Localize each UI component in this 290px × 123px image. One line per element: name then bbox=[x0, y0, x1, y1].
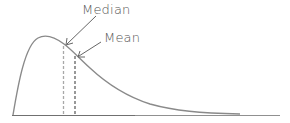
distribution-curve bbox=[13, 36, 240, 115]
skewed-distribution-diagram bbox=[0, 0, 290, 123]
median-label: Median bbox=[82, 2, 130, 17]
mean-arrow bbox=[78, 42, 101, 57]
mean-label: Mean bbox=[104, 30, 140, 45]
median-arrow bbox=[66, 16, 96, 45]
